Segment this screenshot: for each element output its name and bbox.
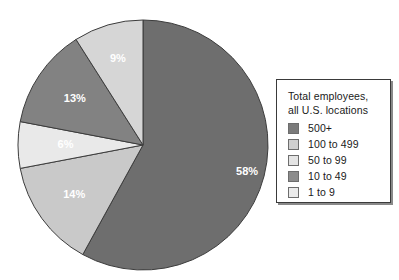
- legend-item[interactable]: 100 to 499: [288, 136, 390, 152]
- pie-slice-label: 58%: [236, 165, 258, 177]
- legend-swatch: [288, 155, 299, 166]
- pie-chart-svg: 58%14%6%13%9%: [0, 0, 272, 280]
- legend-box: Total employees, all U.S. locations 500+…: [276, 79, 391, 203]
- legend-item[interactable]: 10 to 49: [288, 168, 390, 184]
- legend-swatch: [288, 123, 299, 134]
- pie-slice-label: 13%: [64, 92, 86, 104]
- pie-chart-plot-area: 58%14%6%13%9%: [0, 0, 272, 280]
- legend-content: Total employees, all U.S. locations 500+…: [277, 80, 390, 200]
- legend-item-label: 10 to 49: [308, 170, 347, 182]
- legend-item-label: 100 to 499: [308, 138, 359, 150]
- legend-item-label: 50 to 99: [308, 154, 347, 166]
- pie-slices-group: [18, 20, 268, 270]
- legend-item[interactable]: 1 to 9: [288, 184, 390, 200]
- legend-title-line-2: all U.S. locations: [288, 103, 390, 117]
- legend-item[interactable]: 500+: [288, 120, 390, 136]
- legend-item-list: 500+100 to 49950 to 9910 to 491 to 9: [288, 120, 390, 200]
- pie-slice-label: 6%: [58, 138, 74, 150]
- legend-item[interactable]: 50 to 99: [288, 152, 390, 168]
- legend-swatch: [288, 139, 299, 150]
- legend-swatch: [288, 187, 299, 198]
- legend-item-label: 500+: [308, 122, 332, 134]
- pie-chart-figure: 58%14%6%13%9% Total employees, all U.S. …: [0, 0, 399, 280]
- legend-item-label: 1 to 9: [308, 186, 335, 198]
- pie-slice-label: 14%: [63, 188, 85, 200]
- legend-swatch: [288, 171, 299, 182]
- legend-title-line-1: Total employees,: [288, 89, 390, 103]
- pie-slice-label: 9%: [110, 52, 126, 64]
